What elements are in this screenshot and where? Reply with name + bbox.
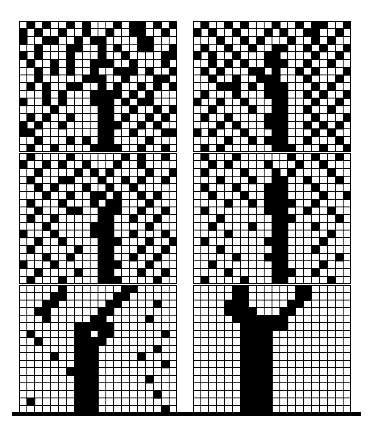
lattice-panel-top-right[interactable] xyxy=(193,21,351,152)
lattice-canvas-middle-left xyxy=(19,153,177,284)
lattice-panel-middle-right[interactable] xyxy=(193,153,351,284)
lattice-canvas-top-right xyxy=(193,21,351,152)
lattice-panel-bottom-left[interactable] xyxy=(19,285,177,413)
lattice-canvas-bottom-left xyxy=(19,285,177,413)
ground-line xyxy=(12,412,361,416)
lattice-canvas-middle-right xyxy=(193,153,351,284)
lattice-panel-middle-left[interactable] xyxy=(19,153,177,284)
lattice-canvas-bottom-right xyxy=(193,285,351,413)
lattice-panel-top-left[interactable] xyxy=(19,21,177,152)
lattice-panel-bottom-right[interactable] xyxy=(193,285,351,413)
figure-root xyxy=(0,0,371,439)
lattice-canvas-top-left xyxy=(19,21,177,152)
